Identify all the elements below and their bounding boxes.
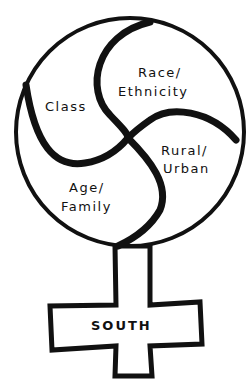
label-rural-line2: Urban: [163, 161, 210, 176]
label-class: Class: [45, 99, 87, 114]
label-race-line1: Race/: [138, 65, 182, 80]
label-age-line2: Family: [61, 199, 112, 214]
label-rural-line1: Rural/: [161, 143, 208, 158]
label-race-line2: Ethnicity: [118, 84, 188, 99]
label-south: SOUTH: [91, 318, 152, 333]
cross: [50, 246, 202, 376]
venus-diagram: Race/ Ethnicity Class Rural/ Urban Age/ …: [0, 0, 249, 390]
label-age-line1: Age/: [69, 180, 105, 195]
